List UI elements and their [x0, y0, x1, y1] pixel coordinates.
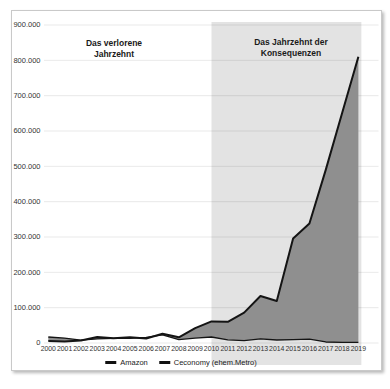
annotation-lost-decade: Das verlorene Jahrzehnt	[77, 38, 151, 61]
legend-item-amazon: Amazon	[105, 358, 148, 367]
x-tick-label: 2019	[351, 345, 366, 352]
annotation-decade-of-consequences: Das Jahrzehnt der Konsequenzen	[245, 37, 337, 60]
legend-item-ceconomy: Ceconomy (ehem.Metro)	[159, 358, 257, 367]
x-tick-label: 2009	[188, 345, 203, 352]
y-tick-label: 900.000	[13, 20, 40, 29]
y-tick-label: 500.000	[13, 162, 40, 171]
x-tick-label: 2010	[204, 345, 219, 352]
x-tick-label: 2008	[171, 345, 186, 352]
x-tick-label: 2005	[122, 345, 137, 352]
y-tick-label: 400.000	[13, 197, 40, 206]
legend: Amazon Ceconomy (ehem.Metro)	[105, 358, 256, 367]
amazon-line-marker-icon	[105, 361, 116, 364]
x-tick-label: 2011	[220, 345, 235, 352]
y-tick-label: 800.000	[13, 56, 40, 65]
x-tick-label: 2003	[90, 345, 105, 352]
x-tick-label: 2014	[269, 345, 284, 352]
x-tick-label: 2004	[106, 345, 121, 352]
x-tick-label: 2018	[334, 345, 349, 352]
y-tick-label: 700.000	[13, 91, 40, 100]
legend-label-amazon: Amazon	[120, 358, 148, 367]
ceconomy-line-marker-icon	[159, 361, 170, 364]
x-tick-label: 2007	[155, 345, 170, 352]
y-tick-label: 200.000	[13, 268, 40, 277]
x-tick-label: 2012	[236, 345, 251, 352]
y-tick-label: 100.000	[13, 303, 40, 312]
y-tick-label: 600.000	[13, 126, 40, 135]
x-tick-label: 2000	[41, 345, 56, 352]
y-tick-label: 300.000	[13, 232, 40, 241]
x-tick-label: 2016	[302, 345, 317, 352]
x-tick-label: 2015	[285, 345, 300, 352]
x-tick-label: 2001	[57, 345, 72, 352]
x-tick-label: 2013	[253, 345, 268, 352]
legend-label-ceconomy: Ceconomy (ehem.Metro)	[174, 358, 257, 367]
x-tick-label: 2017	[318, 345, 333, 352]
chart-figure: 0100.000200.000300.000400.000500.000600.…	[0, 0, 390, 389]
x-tick-label: 2006	[139, 345, 154, 352]
x-tick-label: 2002	[73, 345, 88, 352]
